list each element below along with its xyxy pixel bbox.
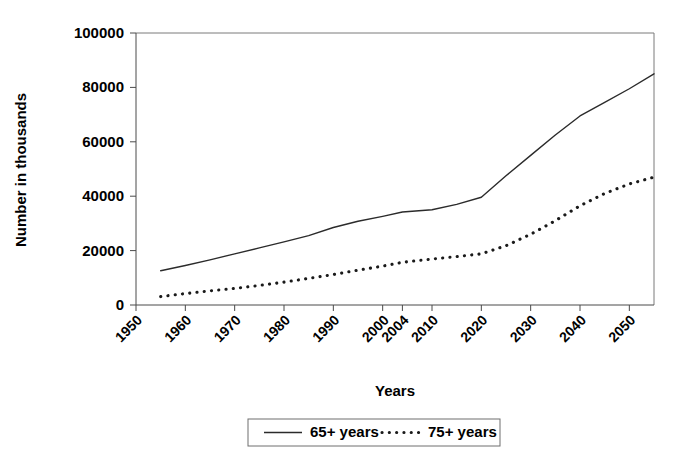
y-tick-label: 0	[116, 296, 124, 313]
x-tick-label: 2030	[506, 312, 539, 345]
chart-legend: 65+ years75+ years	[248, 419, 500, 446]
x-tick-label: 1980	[260, 312, 293, 345]
y-tick-label: 40000	[82, 187, 124, 204]
x-tick-label: 2050	[605, 312, 638, 345]
x-tick-label: 1970	[210, 312, 243, 345]
legend-label-1: 65+ years	[310, 423, 379, 440]
plot-frame	[136, 33, 654, 305]
series-line-2	[161, 177, 654, 296]
x-tick-label: 2040	[556, 312, 589, 345]
x-tick-label: 2020	[457, 312, 490, 345]
x-tick-label: 2010	[408, 312, 441, 345]
y-tick-label: 100000	[74, 24, 124, 41]
x-tick-label: 1990	[309, 312, 342, 345]
x-tick-label: 1960	[161, 312, 194, 345]
y-tick-label: 20000	[82, 242, 124, 259]
y-axis-ticks	[130, 33, 136, 305]
y-tick-label: 60000	[82, 133, 124, 150]
y-axis-title: Number in thousands	[12, 93, 29, 247]
y-axis-tick-labels: 100000800006000040000200000	[74, 24, 124, 313]
x-axis-tick-labels: 1950196019701980199020002004201020202030…	[112, 312, 639, 345]
chart-container: 100000800006000040000200000 195019601970…	[0, 0, 679, 469]
x-tick-label: 1950	[112, 312, 145, 345]
series-line-1	[161, 74, 654, 271]
x-axis-title: Years	[375, 382, 415, 399]
data-series-group	[161, 74, 654, 297]
x-axis-ticks	[136, 305, 629, 311]
legend-label-2: 75+ years	[428, 423, 497, 440]
line-chart: 100000800006000040000200000 195019601970…	[0, 0, 679, 469]
y-tick-label: 80000	[82, 78, 124, 95]
